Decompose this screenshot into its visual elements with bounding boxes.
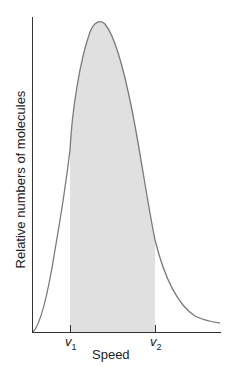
x-axis-label: Speed [92,347,130,362]
y-axis-label: Relative numbers of molecules [13,80,28,280]
chart-canvas [0,0,233,374]
v2-subscript: 2 [157,342,162,352]
tick-label-v2: v2 [150,334,162,352]
v1-subscript: 1 [72,342,77,352]
tick-label-v1: v1 [65,334,77,352]
shaded-area [70,22,155,332]
